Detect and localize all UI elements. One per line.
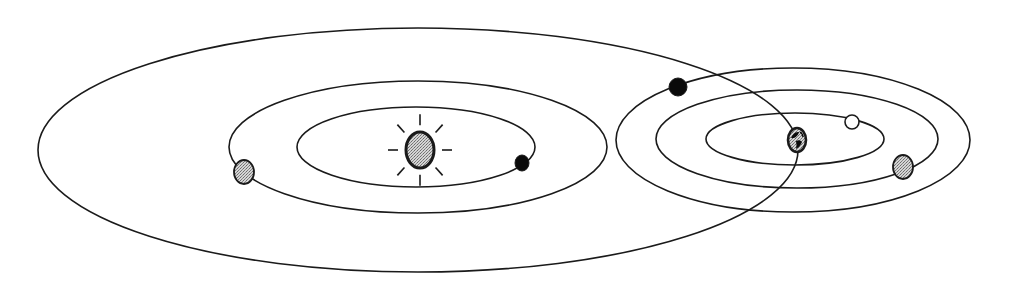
sun-ray xyxy=(397,125,404,133)
planet-right-gray-icon xyxy=(893,155,913,179)
planet-top-black-icon xyxy=(669,78,687,96)
sun-ray xyxy=(397,167,404,175)
planet-inner-black-icon xyxy=(515,155,529,171)
sun-icon xyxy=(388,114,452,186)
sun-ray xyxy=(436,167,443,175)
orbital-diagram xyxy=(0,0,1012,291)
earth-icon xyxy=(788,128,806,152)
sun-ray xyxy=(436,125,443,133)
planet-left-gray-icon xyxy=(234,160,254,184)
bodies-layer xyxy=(234,78,913,186)
moon-white-icon xyxy=(845,115,859,129)
orbital-diagram-canvas xyxy=(0,0,1012,291)
orbits-layer xyxy=(38,28,970,272)
